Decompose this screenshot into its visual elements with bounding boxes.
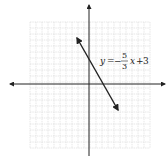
svg-text:3: 3: [122, 62, 127, 71]
svg-text:−: −: [114, 56, 122, 66]
svg-text:5: 5: [122, 51, 127, 60]
plotted-line: [77, 38, 118, 110]
svg-text:x: x: [130, 56, 135, 66]
equation-label: y = − 5 3 x + 3: [99, 51, 149, 71]
svg-text:y: y: [99, 56, 106, 66]
coordinate-plane: y = − 5 3 x + 3: [0, 0, 167, 157]
svg-text:3: 3: [143, 56, 149, 66]
grid: [30, 22, 150, 148]
